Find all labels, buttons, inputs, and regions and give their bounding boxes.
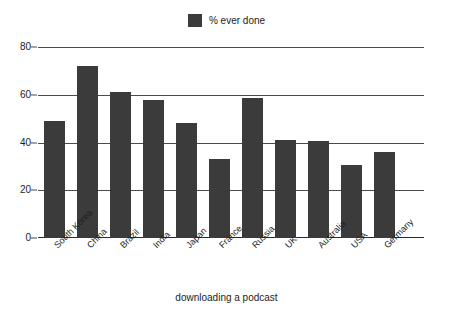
- ytick-label-60: 60: [20, 90, 31, 100]
- bar: [275, 140, 296, 238]
- bar: [242, 98, 263, 238]
- bar-chart: % ever done 80 60 40 20 0 South KoreaChi…: [0, 0, 453, 321]
- x-axis-title: downloading a podcast: [0, 292, 453, 304]
- bar: [110, 92, 131, 238]
- ytick-dash-40: [31, 142, 37, 143]
- bar-group: [38, 47, 424, 238]
- legend-swatch-icon: [188, 14, 202, 27]
- bar: [143, 100, 164, 238]
- bar: [374, 152, 395, 238]
- ytick-label-40: 40: [20, 138, 31, 148]
- legend-label: % ever done: [209, 15, 265, 26]
- bar: [176, 123, 197, 238]
- ytick-label-20: 20: [20, 185, 31, 195]
- ytick-dash-80: [31, 47, 37, 48]
- ytick-dash-60: [31, 94, 37, 95]
- legend-item-percent-ever-done: % ever done: [188, 14, 265, 27]
- x-axis-category-labels: South KoreaChinaBrazilIndiaJapanFranceRu…: [38, 240, 424, 288]
- chart-legend: % ever done: [0, 14, 453, 27]
- bar: [308, 141, 329, 238]
- ytick-dash-0: [31, 238, 37, 239]
- ytick-dash-20: [31, 190, 37, 191]
- bar: [209, 159, 230, 238]
- ytick-label-80: 80: [20, 42, 31, 52]
- plot-area: 80 60 40 20 0: [38, 47, 424, 238]
- bar: [44, 121, 65, 238]
- ytick-label-0: 0: [25, 233, 31, 243]
